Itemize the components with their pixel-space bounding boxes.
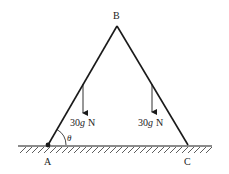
- weight-label-right: 30gN: [138, 117, 163, 128]
- weight-label-left: 30gN: [70, 117, 95, 128]
- angle-arc: [57, 130, 66, 146]
- ground-hatching: [20, 147, 212, 153]
- point-label-b: B: [113, 10, 120, 21]
- hinge-a: [46, 143, 51, 148]
- ladder-diagram: θ 30gN 30gN B A C: [0, 0, 229, 174]
- angle-label: θ: [67, 133, 72, 143]
- point-label-a: A: [44, 156, 52, 167]
- point-label-c: C: [184, 156, 191, 167]
